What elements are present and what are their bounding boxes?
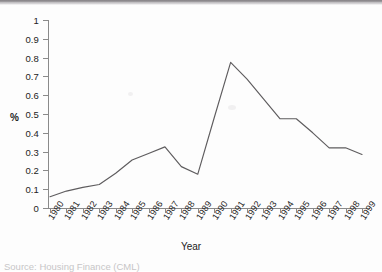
y-axis-tick-label: 0.2 — [25, 165, 39, 176]
y-axis-tick-label: 1 — [34, 15, 39, 26]
y-axis-title: % — [10, 112, 19, 123]
data-line-series — [48, 20, 370, 208]
y-axis-tick-label: 0.6 — [25, 90, 39, 101]
plot-area: 10.90.80.70.60.50.40.30.20.10 1980198119… — [48, 20, 370, 208]
scan-artifact-band-secondary — [0, 3, 382, 5]
y-axis-tick-label: 0.4 — [25, 127, 39, 138]
x-axis-title: Year — [0, 241, 382, 252]
y-axis-tick-label: 0.7 — [25, 71, 39, 82]
y-axis-tick-label: 0.1 — [25, 184, 39, 195]
y-axis-tick-label: 0.9 — [25, 33, 39, 44]
y-axis-tick-label: 0.8 — [25, 52, 39, 63]
y-axis-tick-label: 0.5 — [25, 109, 39, 120]
y-axis-tick-label: 0 — [34, 203, 39, 214]
source-caption: Source: Housing Finance (CML) — [4, 261, 140, 272]
y-axis-tick — [43, 208, 48, 209]
y-axis-tick-label: 0.3 — [25, 146, 39, 157]
